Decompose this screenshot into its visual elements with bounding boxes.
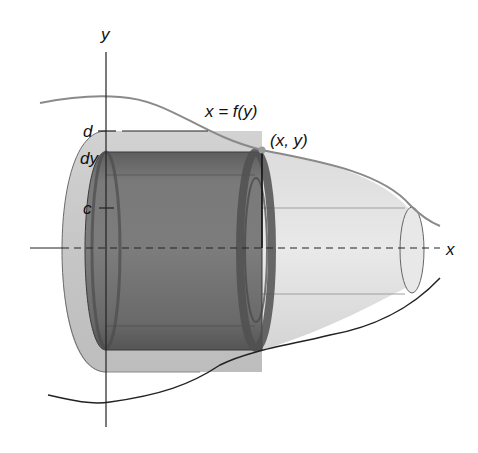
dy-label: dy: [80, 149, 99, 168]
shell-method-diagram: y x x = f(y) (x, y) d dy c: [0, 0, 478, 453]
x-axis-label: x: [445, 240, 455, 259]
y-axis-label: y: [100, 25, 111, 44]
curve-label: x = f(y): [204, 102, 257, 121]
point-marker: [259, 147, 266, 154]
c-label: c: [83, 199, 92, 218]
cylindrical-shell: [85, 152, 272, 350]
end-cap-ellipse: [400, 207, 424, 293]
point-label: (x, y): [270, 131, 308, 150]
d-label: d: [83, 122, 93, 141]
